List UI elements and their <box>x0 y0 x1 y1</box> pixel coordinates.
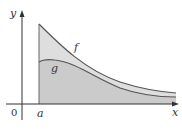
y-axis-arrow-icon <box>20 10 25 17</box>
area-between-curves-diagram: y x 0 a f g <box>0 0 182 133</box>
origin-label: 0 <box>11 107 17 118</box>
x-axis-label: x <box>172 106 179 119</box>
a-label: a <box>37 107 44 120</box>
f-label: f <box>73 41 80 54</box>
y-axis-label: y <box>9 7 17 20</box>
g-label: g <box>51 62 58 75</box>
